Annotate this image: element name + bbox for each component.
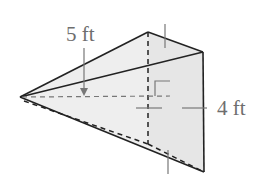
label-slant-height: 5 ft — [66, 24, 95, 45]
edge-right-vertical — [203, 52, 204, 172]
pyramid-diagram — [0, 0, 263, 182]
label-base-side: 4 ft — [217, 98, 246, 119]
